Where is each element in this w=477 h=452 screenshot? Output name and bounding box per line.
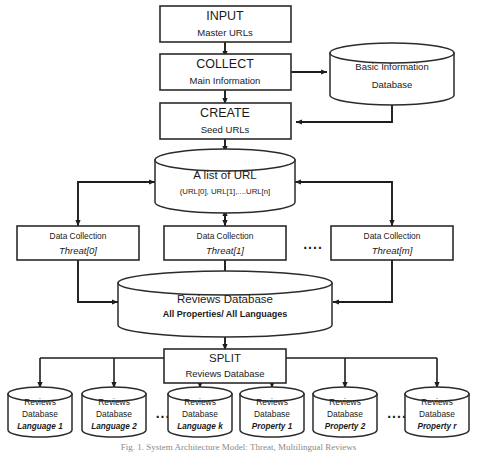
ellipsis-bottom-right: ....	[387, 405, 407, 421]
dc1-title: Data Collection	[197, 231, 254, 241]
node-output-db-6[interactable]: Reviews Database Property r	[405, 387, 469, 437]
arrow-urllist-to-dc0	[78, 182, 155, 226]
arrow-basicdb-to-create	[296, 104, 392, 122]
outdb5-line3: Property 2	[325, 422, 366, 431]
outdb6-line2: Database	[419, 409, 455, 419]
ellipsis-data-collection-row: ....	[303, 236, 323, 252]
outdb3-line3: Language k	[177, 422, 223, 431]
figure-caption: Fig. 1. System Architecture Model: Threa…	[0, 441, 477, 452]
node-collect[interactable]: COLLECT Main Information	[160, 54, 291, 90]
node-output-db-5[interactable]: Reviews Database Property 2	[313, 387, 377, 437]
arrow-dc0-to-reviewsdb	[78, 260, 118, 302]
create-subtitle: Seed URLs	[201, 124, 250, 135]
node-output-db-4[interactable]: Reviews Database Property 1	[240, 387, 304, 437]
dcm-subtitle: Threat[m]	[372, 245, 413, 256]
create-title: CREATE	[200, 106, 250, 120]
input-subtitle: Master URLs	[197, 27, 253, 38]
input-title: INPUT	[206, 9, 244, 23]
node-output-db-3[interactable]: Reviews Database Language k	[168, 387, 232, 437]
arrow-dcm-to-reviewsdb	[333, 260, 392, 302]
outdb6-line3: Property r	[417, 422, 457, 431]
outdb6-line1: Reviews	[421, 397, 453, 407]
node-output-db-1[interactable]: Reviews Database Language 1	[8, 387, 72, 437]
node-create[interactable]: CREATE Seed URLs	[160, 103, 291, 139]
outdb3-line1: Reviews	[184, 397, 216, 407]
outdb4-line1: Reviews	[256, 397, 288, 407]
dc1-subtitle: Threat[1]	[206, 245, 244, 256]
urllist-title: A list of URL	[193, 169, 257, 181]
node-split[interactable]: SPLIT Reviews Database	[164, 349, 286, 383]
outdb3-line2: Database	[182, 409, 218, 419]
system-architecture-flowchart: INPUT Master URLs COLLECT Main Informati…	[0, 0, 477, 452]
outdb2-line3: Language 2	[91, 422, 137, 431]
collect-title: COLLECT	[196, 57, 254, 71]
arrow-urllist-to-dcm	[295, 182, 392, 226]
node-data-collection-1[interactable]: Data Collection Threat[1]	[164, 226, 286, 260]
outdb5-line2: Database	[327, 409, 363, 419]
outdb1-line2: Database	[22, 409, 58, 419]
urllist-subtitle: (URL[0], URL[1],....URL[n]	[180, 187, 271, 196]
outdb5-line1: Reviews	[329, 397, 361, 407]
outdb1-line3: Language 1	[17, 422, 63, 431]
node-data-collection-0[interactable]: Data Collection Threat[0]	[17, 226, 139, 260]
node-output-db-2[interactable]: Reviews Database Language 2	[82, 387, 146, 437]
split-title: SPLIT	[209, 352, 241, 364]
node-data-collection-m[interactable]: Data Collection Threat[m]	[331, 226, 453, 260]
reviewsdb-title: Reviews Database	[177, 293, 273, 305]
outdb4-line3: Property 1	[252, 422, 293, 431]
outdb2-line2: Database	[96, 409, 132, 419]
outdb4-line2: Database	[254, 409, 290, 419]
split-subtitle: Reviews Database	[185, 368, 264, 379]
reviewsdb-subtitle: All Properties/ All Languages	[163, 309, 288, 319]
dc0-subtitle: Threat[0]	[59, 245, 97, 256]
basicdb-line1: Basic Information	[355, 61, 428, 72]
outdb2-line1: Reviews	[98, 397, 130, 407]
dcm-title: Data Collection	[364, 231, 421, 241]
node-input[interactable]: INPUT Master URLs	[160, 6, 291, 42]
node-reviews-database[interactable]: Reviews Database All Properties/ All Lan…	[118, 271, 332, 337]
node-url-list[interactable]: A list of URL (URL[0], URL[1],....URL[n]	[155, 149, 295, 213]
collect-subtitle: Main Information	[190, 75, 261, 86]
dc0-title: Data Collection	[50, 231, 107, 241]
node-basic-information-database[interactable]: Basic Information Database	[330, 43, 454, 105]
outdb1-line1: Reviews	[24, 397, 56, 407]
basicdb-line2: Database	[372, 79, 413, 90]
